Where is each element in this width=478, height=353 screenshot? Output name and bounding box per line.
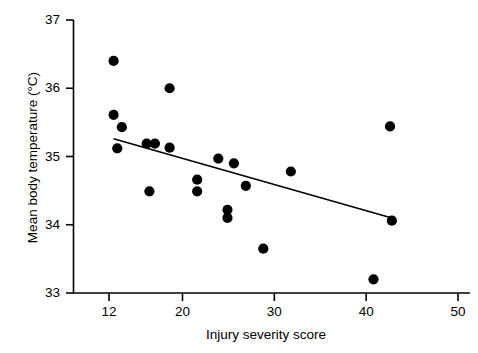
- x-tick-label: 30: [254, 304, 294, 319]
- x-axis-ticks: [109, 294, 458, 302]
- data-point: [222, 213, 232, 223]
- data-point: [387, 216, 397, 226]
- y-axis-ticks: [66, 20, 74, 293]
- data-point: [192, 175, 202, 185]
- data-point: [192, 186, 202, 196]
- y-tick-label: 37: [26, 12, 60, 27]
- trend-line: [114, 139, 392, 218]
- data-point: [112, 143, 122, 153]
- data-point: [385, 121, 395, 131]
- axis-lines: [73, 20, 470, 294]
- data-point: [229, 158, 239, 168]
- x-tick-label: 20: [162, 304, 202, 319]
- data-point: [213, 153, 223, 163]
- data-point: [108, 56, 118, 66]
- data-point: [165, 143, 175, 153]
- x-tick-label: 50: [438, 304, 478, 319]
- data-point: [108, 110, 118, 120]
- data-point: [144, 186, 154, 196]
- scatter-plot-figure: Mean body temperature (°C) Injury severi…: [0, 0, 478, 353]
- y-tick-label: 34: [26, 217, 60, 232]
- data-point: [117, 122, 127, 132]
- data-points: [108, 56, 396, 285]
- data-point: [165, 83, 175, 93]
- data-point: [286, 166, 296, 176]
- data-point: [241, 181, 251, 191]
- y-tick-label: 33: [26, 285, 60, 300]
- x-axis-label: Injury severity score: [73, 327, 459, 342]
- data-point: [258, 244, 268, 254]
- x-tick-label: 40: [346, 304, 386, 319]
- y-tick-label: 36: [26, 80, 60, 95]
- data-point: [150, 138, 160, 148]
- plot-canvas: [0, 0, 478, 353]
- data-point: [368, 274, 378, 284]
- y-tick-label: 35: [26, 149, 60, 164]
- x-tick-label: 12: [89, 304, 129, 319]
- regression-line: [114, 139, 392, 218]
